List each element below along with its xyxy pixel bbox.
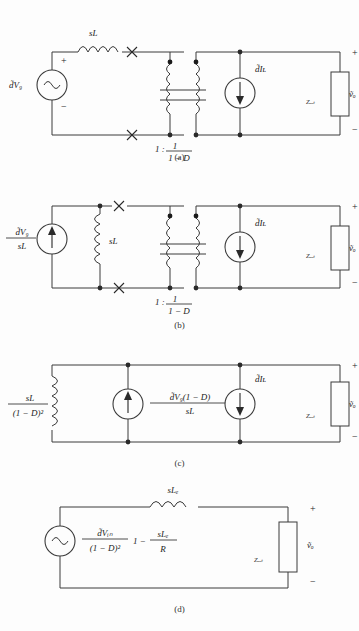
load-impedance-d [279, 522, 297, 572]
load-label-b: Zₒᵤₜ [306, 252, 315, 259]
inductor-denominator-c: (1 − D)² [13, 408, 44, 418]
source-numerator-d: d̃Vᵢₙ [97, 528, 112, 538]
output-plus-d: + [310, 503, 316, 514]
circuit-panel-b: d̃V₉ sL sL [0, 168, 359, 336]
polarity-dot-secondary-b [194, 214, 199, 219]
switch-mark-top-b [114, 201, 124, 211]
turns-ratio-den-b: 1 − D [168, 306, 190, 316]
polarity-dot-secondary-a [194, 60, 199, 65]
source-factor-prefix-d: 1 − [133, 536, 146, 546]
circuit-panel-d: d̃Vᵢₙ (1 − D)² 1 − sLₑ R sLₑ Zₒᵤₜ + − ṽₒ… [0, 484, 359, 631]
inductor-label-a: sL [89, 28, 98, 38]
output-plus-b: + [352, 201, 358, 212]
source-denominator-d: (1 − D)² [90, 543, 121, 553]
circuit-panel-a: + − d̃V₉ sL [0, 0, 359, 168]
current-source-label-b: d̃Iʟ [255, 218, 266, 228]
inductor-label-d: sLₑ [168, 485, 180, 495]
source-factor-numerator-d: sLₑ [158, 529, 170, 539]
output-minus-c: − [352, 431, 358, 442]
load-impedance-b [331, 226, 349, 270]
turns-ratio-num-a: 1 [173, 141, 178, 151]
output-plus-a: + [352, 47, 358, 58]
output-minus-b: − [352, 277, 358, 288]
output-voltage-label-d: ṽₒ [307, 540, 314, 550]
output-plus-c: + [352, 360, 358, 371]
source-minus-a: − [61, 101, 67, 112]
load-label-a: Zₒᵤₜ [306, 98, 315, 105]
source-factor-denominator-d: R [159, 544, 166, 554]
panel-caption-a: (a) [0, 152, 359, 162]
load-label-c: Zₒᵤₜ [306, 412, 315, 419]
panel-caption-b: (b) [0, 320, 359, 330]
source-label-a: d̃V₉ [9, 80, 22, 90]
current-source-label-a: d̃Iʟ [255, 64, 266, 74]
turns-ratio-num-b: 1 [173, 294, 178, 304]
inductor-numerator-c: sL [26, 393, 35, 403]
load-label-d: Zₒᵤₜ [254, 556, 263, 563]
output-voltage-label-b: ṽₒ [349, 243, 356, 253]
polarity-dot-primary-b [168, 214, 173, 219]
circuit-panel-c: sL (1 − D)² d̃V₉(1 − D) sL d̃Iʟ [0, 336, 359, 484]
output-minus-a: − [352, 124, 358, 135]
load-impedance-c [331, 382, 349, 426]
source-numerator-b: d̃V₉ [15, 227, 28, 237]
polarity-dot-primary-a [168, 60, 173, 65]
output-voltage-label-c: ṽₒ [349, 399, 356, 409]
load-impedance-a [331, 72, 349, 116]
output-voltage-label-a: ṽₒ [349, 89, 356, 99]
output-minus-d: − [310, 576, 316, 587]
panel-caption-d: (d) [0, 604, 359, 614]
shunt-inductor-label-b: sL [109, 236, 118, 246]
panel-caption-c: (c) [0, 458, 359, 468]
figure-page: + − d̃V₉ sL [0, 0, 359, 631]
source2-label-c: d̃Iʟ [255, 374, 266, 384]
source1-numerator-c: d̃V₉(1 − D) [170, 392, 211, 402]
source1-denominator-c: sL [186, 406, 195, 416]
turns-ratio-left-b: 1 : [155, 297, 165, 307]
source-denominator-b: sL [18, 241, 27, 251]
source-plus-a: + [61, 55, 67, 66]
